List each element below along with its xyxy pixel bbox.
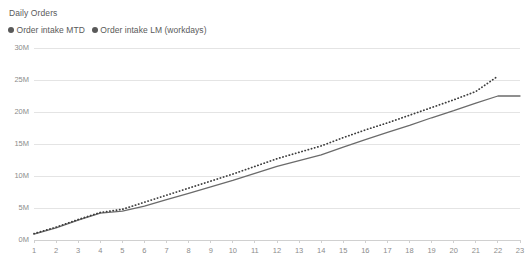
x-axis-tick-label: 10 (229, 246, 237, 255)
x-axis-tick-label: 20 (450, 246, 458, 255)
series-line-order-intake-lm (34, 76, 498, 233)
y-axis-tick-label: 10M (14, 171, 29, 180)
legend-marker-dot-icon (8, 27, 14, 33)
y-axis-tick-label: 15M (14, 139, 29, 148)
x-axis-tick-label: 15 (339, 246, 347, 255)
legend-item-label: Order intake MTD (17, 25, 85, 35)
x-axis-labels-group: 1234567891011121314151617181920212223 (32, 246, 524, 255)
chart-svg: 0M5M10M15M20M25M30M 12345678910111213141… (0, 38, 529, 264)
x-axis-tick-label: 14 (317, 246, 325, 255)
legend-item-label: Order intake LM (workdays) (100, 25, 206, 35)
x-axis-tick-label: 19 (427, 246, 435, 255)
data-series-group (34, 76, 520, 234)
chart-title: Daily Orders (9, 8, 57, 18)
x-axis-tick-label: 7 (164, 246, 168, 255)
x-axis-tick-label: 6 (142, 246, 146, 255)
y-axis-labels-group: 0M5M10M15M20M25M30M (14, 43, 29, 244)
x-axis-tick-label: 9 (209, 246, 213, 255)
x-axis-tick-label: 8 (187, 246, 191, 255)
x-axis-tick-label: 13 (295, 246, 303, 255)
chart-legend: Order intake MTD Order intake LM (workda… (8, 25, 207, 35)
x-axis-tick-label: 18 (405, 246, 413, 255)
x-axis-tick-label: 4 (98, 246, 102, 255)
y-axis-tick-label: 0M (19, 235, 29, 244)
plot-area: 0M5M10M15M20M25M30M 12345678910111213141… (0, 38, 529, 264)
y-axis-tick-label: 20M (14, 107, 29, 116)
y-axis-tick-label: 30M (14, 43, 29, 52)
x-axis-tick-label: 3 (76, 246, 80, 255)
x-axis-tick-label: 16 (361, 246, 369, 255)
series-line-order-intake-mtd (34, 96, 520, 234)
y-axis-tick-label: 5M (19, 203, 29, 212)
x-axis-tick-label: 5 (120, 246, 124, 255)
legend-item-order-intake-lm[interactable]: Order intake LM (workdays) (92, 25, 207, 35)
y-axis-tick-label: 25M (14, 75, 29, 84)
legend-item-order-intake-mtd[interactable]: Order intake MTD (8, 25, 85, 35)
x-axis-tick-label: 17 (383, 246, 391, 255)
x-axis-tick-label: 11 (251, 246, 259, 255)
x-axis-tick-label: 12 (273, 246, 281, 255)
x-axis-tick-label: 23 (516, 246, 524, 255)
legend-marker-dot-icon (92, 27, 98, 33)
x-axis-tick-label: 1 (32, 246, 36, 255)
x-axis-tick-label: 22 (494, 246, 502, 255)
daily-orders-chart-widget: Daily Orders Order intake MTD Order inta… (0, 0, 529, 264)
x-axis-tick-label: 2 (54, 246, 58, 255)
x-axis-tick-label: 21 (472, 246, 480, 255)
